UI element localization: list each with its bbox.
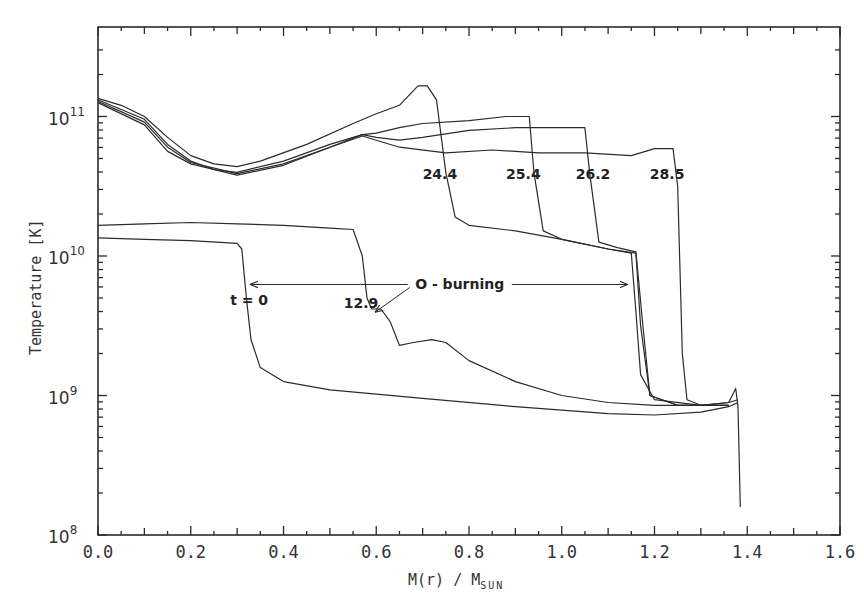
curve-28-5	[98, 103, 729, 406]
y-tick-label: 1011	[48, 105, 85, 129]
x-axis-title-subscript: SUN	[480, 580, 504, 591]
curve-label: 26.2	[576, 166, 611, 182]
x-tick-label: 0.4	[268, 542, 299, 562]
curve-label: t = 0	[230, 292, 268, 308]
y-tick-label: 1010	[48, 244, 85, 268]
x-tick-label: 1.2	[639, 542, 670, 562]
y-axis-title: Temperature [K]	[27, 220, 45, 355]
curves-group	[98, 86, 740, 507]
x-tick-label: 1.6	[825, 542, 856, 562]
curve-label: 12.9	[344, 295, 379, 311]
annotations-group: t = 012.924.425.426.228.5O - burning	[230, 166, 684, 312]
x-axis-title-main: M(r) / M	[408, 571, 480, 589]
x-axis-title: M(r) / MSUN	[408, 571, 504, 591]
curve-label: 24.4	[423, 166, 458, 182]
x-tick-label: 0.6	[361, 542, 392, 562]
x-tick-label: 1.4	[732, 542, 763, 562]
curve-25-4	[98, 100, 729, 406]
y-axis-ticks: 10810910101011	[48, 50, 840, 547]
o-burning-label: O - burning	[415, 276, 504, 292]
x-tick-label: 0.2	[175, 542, 206, 562]
temperature-profile-chart: 0.00.20.40.60.81.01.21.41.6 108109101010…	[0, 0, 864, 597]
x-tick-label: 1.0	[546, 542, 577, 562]
o-burning-arrow-12-9	[376, 287, 410, 311]
curve-label: 28.5	[650, 166, 685, 182]
x-tick-label: 0.0	[83, 542, 114, 562]
y-tick-label: 109	[48, 384, 77, 408]
curve-t-0	[98, 238, 738, 415]
curve-label: 25.4	[506, 166, 541, 182]
x-tick-label: 0.8	[454, 542, 485, 562]
y-tick-label: 108	[48, 523, 77, 547]
